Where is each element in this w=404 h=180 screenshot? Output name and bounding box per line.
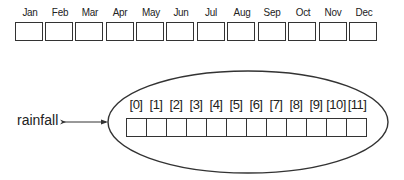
month-box	[75, 22, 103, 41]
index-label: [8]	[286, 97, 306, 112]
month-label: Apr	[107, 6, 134, 18]
array-cell	[166, 118, 187, 137]
index-label: [10]	[326, 97, 346, 112]
array-cell	[346, 118, 367, 137]
index-label: [7]	[266, 97, 286, 112]
index-label: [1]	[146, 97, 166, 112]
month-label: Oct	[290, 6, 317, 18]
array-cell	[246, 118, 267, 137]
arrow-tail-icon	[60, 120, 66, 125]
month-label: Nov	[320, 6, 347, 18]
month-label: Jun	[168, 6, 195, 18]
index-label: [11]	[347, 97, 367, 112]
index-label: [3]	[186, 97, 206, 112]
month-label: Sep	[259, 6, 286, 18]
array-cell	[126, 118, 147, 137]
month-label: Aug	[229, 6, 256, 18]
month-box	[15, 22, 43, 41]
index-label: [2]	[166, 97, 186, 112]
month-label: Mar	[77, 6, 104, 18]
array-cell	[226, 118, 247, 137]
array-cell	[206, 118, 227, 137]
month-box	[319, 22, 347, 41]
month-box	[136, 22, 164, 41]
month-label: Feb	[47, 6, 74, 18]
array-variable-label: rainfall	[17, 112, 58, 128]
month-label: May	[138, 6, 165, 18]
index-label: [9]	[306, 97, 326, 112]
array-cell	[326, 118, 347, 137]
arrow-head-icon	[101, 120, 108, 125]
month-label: Jul	[198, 6, 225, 18]
month-box	[197, 22, 225, 41]
array-cell	[266, 118, 287, 137]
month-label: Dec	[351, 6, 378, 18]
index-label: [6]	[246, 97, 266, 112]
month-box	[106, 22, 134, 41]
month-box	[288, 22, 316, 41]
month-box	[227, 22, 255, 41]
index-label: [0]	[126, 97, 146, 112]
array-cell	[146, 118, 167, 137]
month-box	[258, 22, 286, 41]
month-box	[45, 22, 73, 41]
month-box	[349, 22, 377, 41]
array-cell	[286, 118, 307, 137]
index-label: [5]	[226, 97, 246, 112]
array-cell	[186, 118, 207, 137]
index-label: [4]	[206, 97, 226, 112]
month-box	[166, 22, 194, 41]
month-label: Jan	[17, 6, 44, 18]
array-cell	[306, 118, 327, 137]
